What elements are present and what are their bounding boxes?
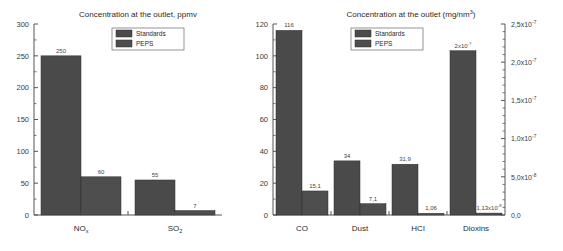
bar-value-label: 1,13x10-8 — [476, 203, 502, 211]
y2-tick-label: 2,0x10-7 — [511, 58, 537, 66]
bar-standards-NO[interactable] — [41, 56, 81, 215]
chart-right-title-suffix: ) — [473, 10, 476, 19]
y-tick-label: 100 — [255, 52, 268, 61]
y-tick-label: 0 — [25, 211, 29, 220]
chart-left-title: Concentration at the outlet, ppmv — [79, 10, 197, 19]
bar-value-label: 55 — [152, 172, 159, 178]
chart-right-svg: Concentration at the outlet (mg/nm3)0204… — [233, 0, 563, 251]
bar-value-label: 31,9 — [399, 156, 411, 162]
legend-label-peps: PEPS — [136, 40, 154, 47]
y2-tick-exponent: -8 — [532, 173, 537, 178]
bar-peps-NO[interactable] — [81, 177, 121, 215]
y2-tick-label: 0,0 — [511, 212, 521, 219]
y-tick-label: 20 — [260, 179, 268, 188]
x-category-label: Dust — [352, 224, 369, 233]
legend-swatch-peps — [355, 40, 371, 47]
y2-tick-exponent: -7 — [532, 96, 537, 101]
bar-standards-dioxins[interactable] — [450, 51, 476, 215]
x-category-label: NOx — [74, 224, 89, 234]
bar-peps-dioxins[interactable] — [476, 213, 502, 215]
y2-tick-exponent: -7 — [532, 134, 537, 139]
bar-value-label: 250 — [56, 48, 67, 54]
chart-left-svg: Concentration at the outlet, ppmv0501001… — [0, 0, 233, 251]
bar-standards-SO[interactable] — [135, 180, 175, 215]
legend-swatch-standards — [116, 30, 132, 37]
bar-peps-dust[interactable] — [360, 204, 386, 215]
x-category-label: CO — [296, 224, 308, 233]
bar-value-label: 7 — [193, 203, 197, 209]
y-tick-label: 120 — [255, 20, 268, 29]
y2-tick-label: 1,5x10-7 — [511, 96, 537, 104]
y2-tick-label: 5,0x10-8 — [511, 173, 537, 181]
y-tick-label: 100 — [16, 147, 29, 156]
bar-value-label: 7,1 — [369, 196, 378, 202]
bar-value-label: 34 — [344, 153, 351, 159]
y2-tick-exponent: -7 — [532, 58, 537, 63]
bar-peps-hcl[interactable] — [418, 213, 444, 215]
legend-label-peps: PEPS — [375, 40, 393, 47]
bar-value-label: 116 — [284, 22, 294, 28]
y2-tick-label: 1,0x10-7 — [511, 134, 537, 142]
figure-container: Concentration at the outlet, ppmv0501001… — [0, 0, 563, 251]
y2-tick-exponent: -7 — [532, 20, 537, 25]
legend-label-standards: Standards — [375, 30, 405, 37]
x-category-subscript: x — [86, 228, 89, 234]
chart-right-title: Concentration at the outlet (mg/nm3) — [347, 9, 476, 19]
y-tick-label: 300 — [16, 20, 29, 29]
bar-standards-co[interactable] — [276, 30, 302, 215]
bar-value-label: 60 — [98, 169, 105, 175]
bar-value-exponent: -8 — [498, 203, 502, 208]
y-tick-label: 200 — [16, 83, 29, 92]
bar-peps-SO[interactable] — [175, 211, 215, 215]
y-tick-label: 0 — [264, 211, 268, 220]
legend-swatch-peps — [116, 40, 132, 47]
chart-right-mgnm3: Concentration at the outlet (mg/nm3)0204… — [233, 0, 563, 251]
bar-value-label: 1,06 — [425, 205, 437, 211]
legend-label-standards: Standards — [136, 30, 166, 37]
x-category-label: HCl — [411, 224, 425, 233]
bar-standards-dust[interactable] — [334, 161, 360, 215]
chart-left-ppmv: Concentration at the outlet, ppmv0501001… — [0, 0, 233, 251]
y-tick-label: 250 — [16, 52, 29, 61]
bar-peps-co[interactable] — [302, 191, 328, 215]
x-category-label: SO2 — [168, 224, 183, 234]
bar-value-label: 15,1 — [309, 183, 321, 189]
x-category-subscript: 2 — [179, 228, 182, 234]
x-category-label: Dioxins — [463, 224, 489, 233]
y2-tick-label: 2,5x10-7 — [511, 20, 537, 28]
bar-standards-hcl[interactable] — [392, 164, 418, 215]
y-tick-label: 40 — [260, 147, 268, 156]
bar-value-label: 2x10-7 — [455, 41, 472, 49]
legend-swatch-standards — [355, 30, 371, 37]
y-tick-label: 50 — [21, 179, 29, 188]
bar-value-exponent: -7 — [468, 41, 472, 46]
y-tick-label: 60 — [260, 115, 268, 124]
y-tick-label: 150 — [16, 115, 29, 124]
y-tick-label: 80 — [260, 83, 268, 92]
